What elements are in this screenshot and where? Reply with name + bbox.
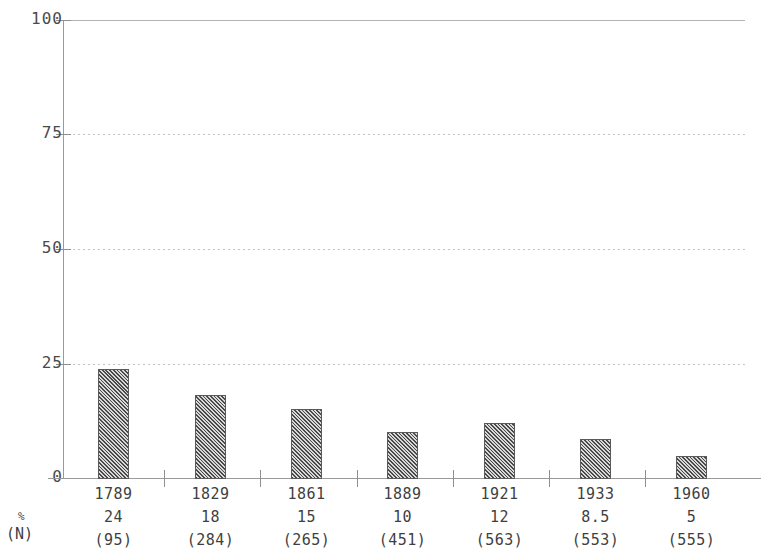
category-label: 1933 bbox=[550, 483, 641, 506]
y-tick-label: 0 bbox=[17, 469, 63, 485]
y-tick-label: 50 bbox=[17, 240, 63, 256]
gridline-75 bbox=[63, 134, 745, 135]
n-label: (555) bbox=[646, 529, 737, 550]
category-column-1933: 1933 8.5 (553) bbox=[550, 483, 641, 550]
category-column-1861: 1861 15 (265) bbox=[261, 483, 352, 550]
bar-1921 bbox=[484, 423, 515, 479]
n-label: (95) bbox=[68, 529, 159, 550]
n-label: (265) bbox=[261, 529, 352, 550]
value-label: 24 bbox=[68, 506, 159, 529]
category-column-1960: 1960 5 (555) bbox=[646, 483, 737, 550]
category-label: 1861 bbox=[261, 483, 352, 506]
category-column-1829: 1829 18 (284) bbox=[165, 483, 256, 550]
gridline-25 bbox=[63, 364, 745, 365]
bar-chart: 100 75 50 25 0 % (N) 1789 24 (95) 1829 1… bbox=[0, 0, 767, 550]
value-label: 5 bbox=[646, 506, 737, 529]
bar-1861 bbox=[291, 409, 322, 479]
bar-1789 bbox=[98, 369, 129, 479]
y-tick-label: 75 bbox=[17, 125, 63, 141]
y-tick-label: 25 bbox=[17, 355, 63, 371]
category-label: 1960 bbox=[646, 483, 737, 506]
gridline-100 bbox=[63, 20, 745, 21]
category-label: 1921 bbox=[454, 483, 545, 506]
category-column-1789: 1789 24 (95) bbox=[68, 483, 159, 550]
y-tick-label: 100 bbox=[17, 11, 63, 27]
category-label: 1889 bbox=[357, 483, 448, 506]
n-label: (553) bbox=[550, 529, 641, 550]
n-label: (284) bbox=[165, 529, 256, 550]
bar-1960 bbox=[676, 456, 707, 479]
value-label: 15 bbox=[261, 506, 352, 529]
value-label: 8.5 bbox=[550, 506, 641, 529]
category-label: 1829 bbox=[165, 483, 256, 506]
value-label: 18 bbox=[165, 506, 256, 529]
category-label: 1789 bbox=[68, 483, 159, 506]
bar-1889 bbox=[387, 432, 418, 479]
y-axis-line bbox=[63, 20, 64, 479]
row-label-n: (N) bbox=[6, 523, 56, 546]
category-column-1889: 1889 10 (451) bbox=[357, 483, 448, 550]
category-column-1921: 1921 12 (563) bbox=[454, 483, 545, 550]
value-label: 10 bbox=[357, 506, 448, 529]
gridline-50 bbox=[63, 249, 745, 250]
bar-1933 bbox=[580, 439, 611, 479]
value-label: 12 bbox=[454, 506, 545, 529]
n-label: (451) bbox=[357, 529, 448, 550]
bar-1829 bbox=[195, 395, 226, 479]
n-label: (563) bbox=[454, 529, 545, 550]
